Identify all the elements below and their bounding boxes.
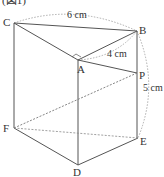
hidden-edge-fe: [14, 128, 138, 138]
dimension-label-be: 5 cm: [143, 82, 163, 93]
edge-de: [78, 138, 138, 165]
vertex-label-f: F: [3, 122, 9, 134]
edge-ap: [78, 60, 137, 73]
edge-ca: [14, 23, 78, 60]
dimension-label-ab: 4 cm: [107, 48, 127, 59]
vertex-label-d: D: [73, 166, 81, 177]
hidden-segment-fp: [14, 73, 137, 128]
vertex-label-a: A: [77, 63, 85, 75]
figure-caption: (図1): [2, 0, 26, 7]
vertex-label-c: C: [3, 16, 10, 28]
vertex-label-e: E: [140, 135, 147, 147]
vertex-label-p: P: [139, 69, 145, 81]
vertex-label-b: B: [139, 24, 146, 36]
edge-fd: [14, 128, 78, 165]
edge-cb: [14, 23, 137, 31]
dimension-label-cb: 6 cm: [67, 9, 87, 20]
right-angle-marker: [72, 54, 81, 57]
triangular-prism-diagram: (図1) C B A P F E D 6 cm 4 cm 5 cm: [0, 0, 164, 177]
